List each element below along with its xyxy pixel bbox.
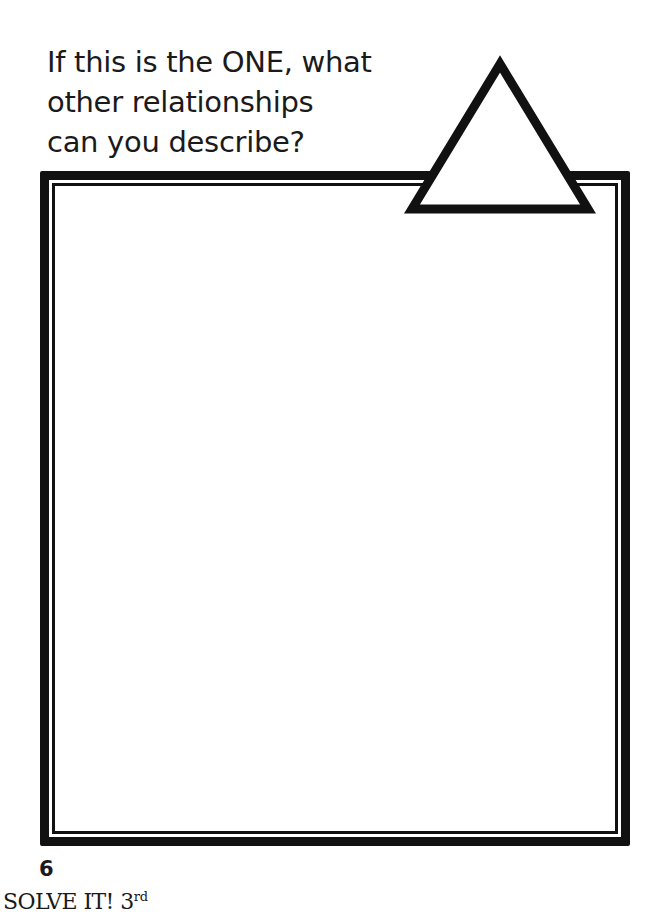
triangle-icon: [400, 52, 600, 222]
book-title: SOLVE IT! 3rd: [3, 888, 148, 916]
prompt-line-3: can you describe?: [47, 122, 372, 162]
prompt-line-1: If this is the ONE, what: [47, 42, 372, 82]
grade-suffix: rd: [134, 889, 149, 904]
prompt-question: If this is the ONE, what other relations…: [47, 42, 372, 162]
prompt-line-2: other relationships: [47, 82, 372, 122]
page-number: 6: [39, 857, 54, 881]
book-title-text: SOLVE IT! 3: [3, 889, 134, 914]
answer-box[interactable]: [40, 171, 630, 846]
answer-box-inner-border: [52, 183, 618, 834]
